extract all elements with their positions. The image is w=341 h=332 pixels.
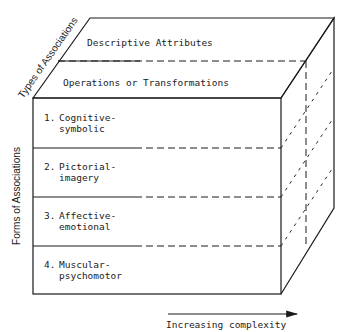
svg-text:Affective-: Affective- xyxy=(59,210,116,221)
svg-text:Cognitive-: Cognitive- xyxy=(59,112,116,123)
cube-right-face xyxy=(281,18,334,294)
association-cube-diagram: Descriptive Attributes Operations or Tra… xyxy=(0,0,341,332)
svg-text:imagery: imagery xyxy=(59,172,99,183)
form-affective-emotional: 3. Affective- emotional xyxy=(44,210,116,232)
svg-text:2.: 2. xyxy=(44,161,55,172)
svg-text:emotional: emotional xyxy=(59,221,110,232)
form-pictorial-imagery: 2. Pictorial- imagery xyxy=(44,161,116,183)
type-operations-transformations: Operations or Transformations xyxy=(63,77,229,88)
form-muscular-psychomotor: 4. Muscular- psychomotor xyxy=(44,259,122,281)
increasing-complexity-label: Increasing complexity xyxy=(166,319,286,330)
forms-of-associations-label: Forms of Associations xyxy=(11,147,22,245)
form-cognitive-symbolic: 1. Cognitive- symbolic xyxy=(44,112,116,134)
svg-text:Pictorial-: Pictorial- xyxy=(59,161,116,172)
svg-text:symbolic: symbolic xyxy=(59,123,105,134)
type-descriptive-attributes: Descriptive Attributes xyxy=(87,37,213,48)
svg-text:1.: 1. xyxy=(44,112,55,123)
svg-text:psychomotor: psychomotor xyxy=(59,270,122,281)
svg-text:Muscular-: Muscular- xyxy=(59,259,110,270)
svg-text:3.: 3. xyxy=(44,210,55,221)
svg-text:4.: 4. xyxy=(44,259,55,270)
